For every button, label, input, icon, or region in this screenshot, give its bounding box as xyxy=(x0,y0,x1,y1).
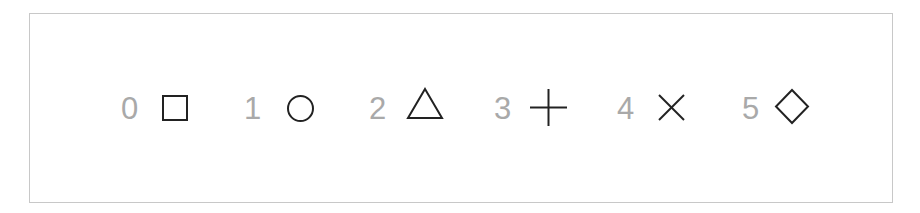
index-label: 2 xyxy=(369,93,386,124)
figure-frame xyxy=(29,13,893,203)
index-label: 1 xyxy=(244,93,261,124)
index-label: 3 xyxy=(494,93,511,124)
square-icon xyxy=(162,95,188,121)
index-label: 0 xyxy=(121,93,138,124)
cross-icon xyxy=(658,94,685,121)
diamond-icon xyxy=(775,89,809,124)
circle-icon xyxy=(287,95,314,122)
plus-icon xyxy=(530,89,567,126)
index-label: 5 xyxy=(742,93,759,124)
index-label: 4 xyxy=(617,93,634,124)
triangle-icon xyxy=(407,88,443,119)
